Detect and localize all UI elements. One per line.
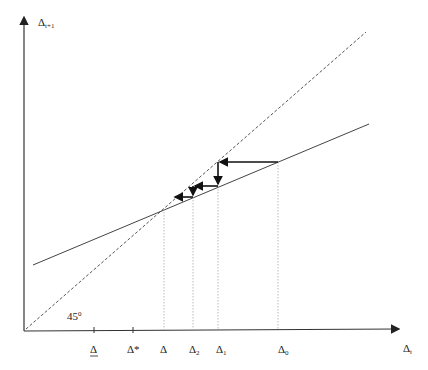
x-axis-label: Δt (403, 342, 412, 356)
tick-label-delta-2: Δ2 (189, 343, 200, 357)
tick-label-lower-bound: Δ (90, 343, 97, 355)
vertical-guides (164, 162, 278, 330)
45-degree-line (26, 32, 366, 329)
y-axis-label: Δt+1 (38, 16, 55, 30)
angle-label: 450 (67, 310, 82, 322)
x-axis (24, 329, 398, 331)
tick-label-delta-1: Δ1 (216, 343, 227, 357)
tick-label-delta: Δ (160, 343, 167, 355)
tick-label-delta-star: Δ* (127, 343, 140, 355)
tick-label-delta-0: Δ0 (278, 343, 289, 357)
cobweb-diagram: Δt+1 Δt 450 Δ Δ* Δ Δ2 Δ1 Δ0 (0, 0, 428, 370)
cobweb-arrows (175, 162, 278, 197)
map-line (33, 124, 369, 265)
